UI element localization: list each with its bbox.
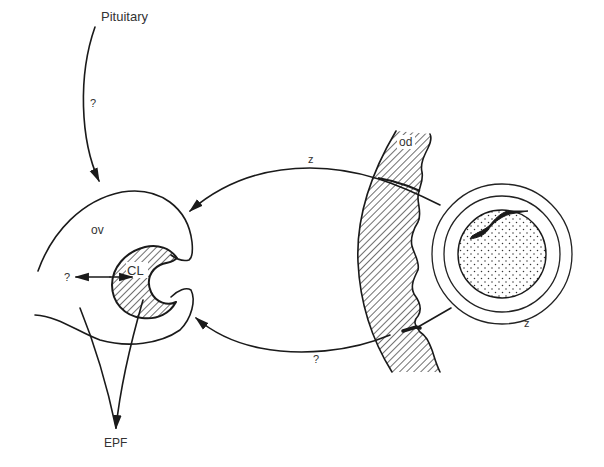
pituitary-node: Pituitary	[101, 9, 148, 24]
corpus-luteum: CL	[112, 246, 177, 318]
embryo-to-oviduct-link	[418, 308, 451, 327]
pituitary-label: Pituitary	[101, 9, 148, 24]
embryo-cytoplasm	[458, 210, 546, 298]
pituitary-arrow-query-label: ?	[90, 97, 96, 109]
ovary-label: ov	[91, 223, 104, 237]
lower-arc-label: ?	[313, 353, 319, 365]
oviduct-label: od	[399, 135, 412, 149]
embryo-link-label: z	[524, 317, 530, 329]
cl-query-label: ?	[64, 271, 70, 283]
reproductive-signaling-diagram: Pituitary ? ov CL ? EPF od z	[0, 0, 604, 467]
corpus-luteum-label: CL	[127, 263, 144, 278]
ovary: ov	[35, 191, 193, 344]
corpus-luteum-shape	[112, 246, 177, 318]
cl-to-epf-arrow	[116, 300, 143, 428]
upper-arc-label: z	[308, 153, 314, 165]
oviduct-wall	[358, 131, 440, 372]
ovary-to-epf-line	[80, 308, 116, 428]
lower-signal-arrow	[196, 318, 390, 352]
epf-label: EPF	[104, 436, 127, 450]
embryo	[432, 184, 572, 324]
oviduct: od	[358, 131, 440, 372]
